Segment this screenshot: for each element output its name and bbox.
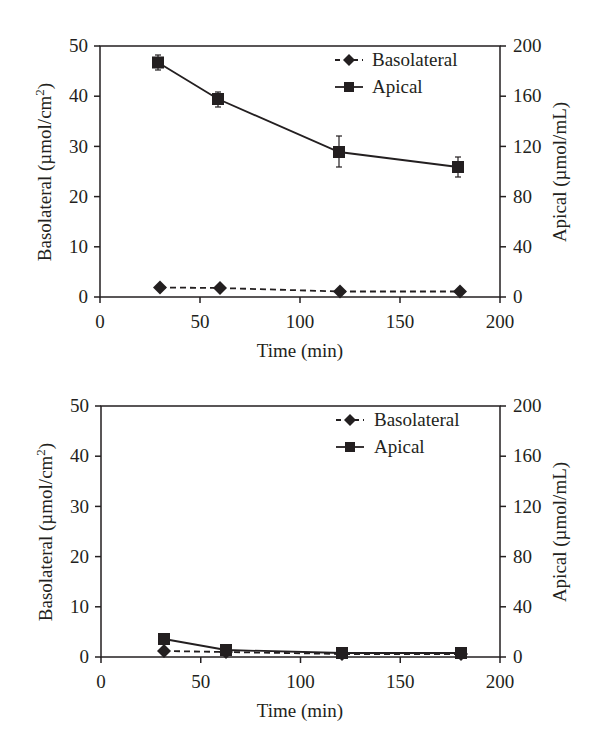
tick-label: 200 (486, 311, 515, 332)
tick-label: 30 (70, 496, 89, 517)
x-axis-title: Time (min) (257, 700, 343, 722)
legend-label: Basolateral (374, 409, 459, 430)
tick-label: 100 (286, 671, 315, 692)
legend-label: Basolateral (372, 49, 457, 70)
tick-label: 20 (70, 546, 89, 567)
tick-label: 0 (513, 646, 523, 667)
y-axis-right-ticks (500, 46, 506, 297)
tick-label: 30 (69, 136, 88, 157)
x-axis-labels: 0 50 100 150 200 (95, 311, 514, 332)
x-axis-labels: 0 50 100 150 200 (96, 671, 514, 692)
tick-label: 10 (69, 236, 88, 257)
x-axis-title: Time (min) (257, 340, 343, 362)
tick-label: 160 (513, 445, 542, 466)
y-axis-right-ticks (500, 406, 506, 657)
tick-label: 50 (191, 311, 210, 332)
legend-label: Apical (374, 436, 425, 457)
tick-label: 0 (513, 286, 523, 307)
tick-label: 40 (513, 596, 532, 617)
legend: Basolateral Apical (335, 49, 457, 97)
tick-label: 0 (95, 311, 105, 332)
tick-label: 160 (513, 85, 542, 106)
tick-label: 50 (69, 35, 88, 56)
tick-label: 0 (80, 646, 90, 667)
tick-label: 150 (386, 311, 415, 332)
legend-item-apical: Apical (336, 436, 425, 457)
legend-label: Apical (372, 76, 423, 97)
chart-top: 0 10 20 30 40 50 0 40 80 120 160 200 0 5… (0, 0, 614, 375)
tick-label: 120 (513, 136, 542, 157)
series-apical (158, 633, 467, 659)
y-axis-left-title: Basolateral (µmol/cm2) (33, 443, 57, 621)
tick-label: 120 (513, 496, 542, 517)
y-axis-left-ticks (95, 406, 101, 657)
x-axis-ticks (100, 297, 500, 303)
diamond-marker-icon (343, 54, 355, 66)
y-axis-left-labels: 0 10 20 30 40 50 (69, 35, 88, 307)
tick-label: 80 (513, 546, 532, 567)
y-axis-right-labels: 0 40 80 120 160 200 (513, 35, 542, 307)
plot-area (100, 46, 500, 297)
tick-label: 10 (70, 596, 89, 617)
square-marker-icon (345, 442, 355, 452)
chart-bottom: 0 10 20 30 40 50 0 40 80 120 160 200 0 5… (0, 375, 614, 750)
series-basolateral (153, 281, 467, 299)
tick-label: 20 (69, 186, 88, 207)
tick-label: 50 (70, 395, 89, 416)
plot-area (101, 406, 500, 657)
legend: Basolateral Apical (336, 409, 459, 457)
error-bars (155, 55, 461, 177)
tick-label: 50 (191, 671, 210, 692)
tick-label: 200 (486, 671, 515, 692)
diamond-marker-icon (344, 414, 356, 426)
y-axis-left-ticks (94, 46, 100, 297)
square-marker-icon (344, 82, 354, 92)
y-axis-right-title: Apical (µmol/mL) (549, 102, 571, 242)
tick-label: 40 (70, 445, 89, 466)
legend-item-basolateral: Basolateral (335, 49, 457, 70)
legend-item-apical: Apical (335, 76, 423, 97)
tick-label: 150 (386, 671, 415, 692)
y-axis-left-title: Basolateral (µmol/cm2) (32, 83, 56, 261)
series-apical (152, 55, 464, 177)
tick-label: 0 (96, 671, 106, 692)
tick-label: 0 (79, 286, 89, 307)
tick-label: 40 (69, 85, 88, 106)
legend-item-basolateral: Basolateral (336, 409, 459, 430)
y-axis-right-labels: 0 40 80 120 160 200 (513, 395, 542, 667)
tick-label: 80 (513, 186, 532, 207)
y-axis-right-title: Apical (µmol/mL) (549, 462, 571, 602)
y-axis-left-labels: 0 10 20 30 40 50 (70, 395, 89, 667)
tick-label: 200 (513, 35, 542, 56)
tick-label: 200 (513, 395, 542, 416)
tick-label: 100 (286, 311, 315, 332)
x-axis-ticks (101, 657, 500, 663)
tick-label: 40 (513, 236, 532, 257)
